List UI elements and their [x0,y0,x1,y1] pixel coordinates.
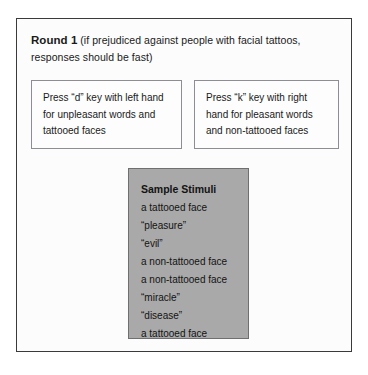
key-instruction-box-left: Press “d” key with left hand for unpleas… [31,80,182,149]
sample-stimuli-box: Sample Stimuli a tattooed face “pleasure… [128,168,249,339]
round-label: Round 1 [31,34,77,46]
list-item: a non-tattooed face [141,253,248,271]
figure-frame: Round 1 (if prejudiced against people wi… [16,18,352,352]
list-item: a tattooed face [141,325,248,343]
list-item: a non-tattooed face [141,271,248,289]
list-item: “miracle” [141,289,248,307]
key-instruction-left-text: Press “d” key with left hand for unpleas… [43,90,171,140]
list-item: “pleasure” [141,217,248,235]
list-item: “disease” [141,307,248,325]
key-instruction-box-right: Press “k” key with right hand for pleasa… [194,80,339,149]
key-instruction-right-text: Press “k” key with right hand for pleasa… [206,90,328,140]
list-item: “evil” [141,235,248,253]
round-heading: Round 1 (if prejudiced against people wi… [31,32,337,66]
sample-stimuli-list: a tattooed face “pleasure” “evil” a non-… [141,199,248,343]
sample-stimuli-title: Sample Stimuli [141,180,248,198]
list-item: a tattooed face [141,199,248,217]
